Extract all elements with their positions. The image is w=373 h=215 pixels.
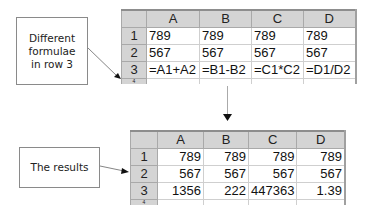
row-header[interactable]: 1 (131, 149, 158, 166)
row-header[interactable]: 1 (122, 28, 147, 45)
row-header[interactable]: 4 (131, 200, 158, 206)
cell-a2[interactable]: 567 (147, 45, 200, 62)
cell-d1[interactable]: 789 (304, 28, 356, 45)
cell-a1[interactable]: 789 (158, 149, 204, 166)
table-row-partial: 4 (122, 79, 356, 85)
column-header-b[interactable]: B (200, 10, 252, 28)
cell-b1[interactable]: 789 (200, 28, 252, 45)
cell[interactable] (304, 79, 356, 85)
column-header-d[interactable]: D (297, 131, 345, 149)
table-row: 2 567 567 567 567 (122, 45, 356, 62)
callout-line: Different (29, 32, 76, 45)
cell-c1[interactable]: 789 (252, 28, 304, 45)
cell[interactable] (204, 200, 249, 206)
cell-c2[interactable]: 567 (252, 45, 304, 62)
table-row: 1 789 789 789 789 (122, 28, 356, 45)
column-header-d[interactable]: D (304, 10, 356, 28)
cell-a3[interactable]: =A1+A2 (147, 62, 200, 79)
cell-a2[interactable]: 567 (158, 166, 204, 183)
cell-d2[interactable]: 567 (304, 45, 356, 62)
cell[interactable] (249, 200, 297, 206)
column-header-b[interactable]: B (204, 131, 249, 149)
cell-b1[interactable]: 789 (204, 149, 249, 166)
callout-different-formulae: Different formulae in row 3 (16, 17, 88, 85)
cell-b2[interactable]: 567 (200, 45, 252, 62)
row-header[interactable]: 3 (131, 183, 158, 200)
column-header-row: A B C D (122, 10, 356, 28)
cell-d2[interactable]: 567 (297, 166, 345, 183)
cell[interactable] (297, 200, 345, 206)
row-header[interactable]: 4 (122, 79, 147, 85)
cell[interactable] (158, 200, 204, 206)
cell-b2[interactable]: 567 (204, 166, 249, 183)
cell-a3[interactable]: 1356 (158, 183, 204, 200)
cell-d3[interactable]: =D1/D2 (304, 62, 356, 79)
callout-line: in row 3 (29, 58, 76, 71)
cell[interactable] (252, 79, 304, 85)
cell-d1[interactable]: 789 (297, 149, 345, 166)
cell[interactable] (200, 79, 252, 85)
cell-c3[interactable]: 447363 (249, 183, 297, 200)
cell-b3[interactable]: 222 (204, 183, 249, 200)
spreadsheet-results: A B C D 1 789 789 789 789 2 567 567 567 … (130, 130, 346, 205)
callout-the-results: The results (19, 147, 100, 188)
column-header-a[interactable]: A (158, 131, 204, 149)
row-header[interactable]: 2 (122, 45, 147, 62)
arrow-down-icon (223, 86, 232, 121)
arrow-formulae-to-row3-icon (88, 48, 121, 79)
row-header[interactable]: 2 (131, 166, 158, 183)
table-row-partial: 4 (131, 200, 345, 206)
table-row: 1 789 789 789 789 (131, 149, 345, 166)
cell-a1[interactable]: 789 (147, 28, 200, 45)
table-row: 3 =A1+A2 =B1-B2 =C1*C2 =D1/D2 (122, 62, 356, 79)
cell-c3[interactable]: =C1*C2 (252, 62, 304, 79)
cell-c1[interactable]: 789 (249, 149, 297, 166)
table-row: 2 567 567 567 567 (131, 166, 345, 183)
column-header-a[interactable]: A (147, 10, 200, 28)
column-header-c[interactable]: C (252, 10, 304, 28)
cell-d3[interactable]: 1.39 (297, 183, 345, 200)
table-row: 3 1356 222 447363 1.39 (131, 183, 345, 200)
spreadsheet-formulae: A B C D 1 789 789 789 789 2 567 567 567 … (121, 9, 357, 84)
arrow-results-to-table-icon (100, 166, 129, 174)
callout-text: The results (30, 161, 88, 174)
row-header[interactable]: 3 (122, 62, 147, 79)
cell[interactable] (147, 79, 200, 85)
select-all-corner[interactable] (131, 131, 158, 149)
cell-b3[interactable]: =B1-B2 (200, 62, 252, 79)
select-all-corner[interactable] (122, 10, 147, 28)
column-header-c[interactable]: C (249, 131, 297, 149)
cell-c2[interactable]: 567 (249, 166, 297, 183)
column-header-row: A B C D (131, 131, 345, 149)
callout-line: formulae (29, 45, 76, 58)
